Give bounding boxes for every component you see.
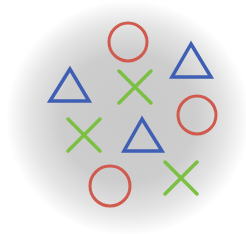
- triangle-shape: [124, 119, 162, 151]
- shapes-canvas: [0, 0, 246, 234]
- cross-shape: [68, 119, 100, 151]
- triangle-shape: [172, 44, 211, 77]
- circle-shape: [178, 96, 216, 134]
- circle-shape: [109, 23, 147, 61]
- circle-shape: [90, 166, 130, 206]
- cross-shape: [119, 71, 151, 103]
- cross-shape: [165, 162, 197, 194]
- triangle-shape: [50, 69, 89, 101]
